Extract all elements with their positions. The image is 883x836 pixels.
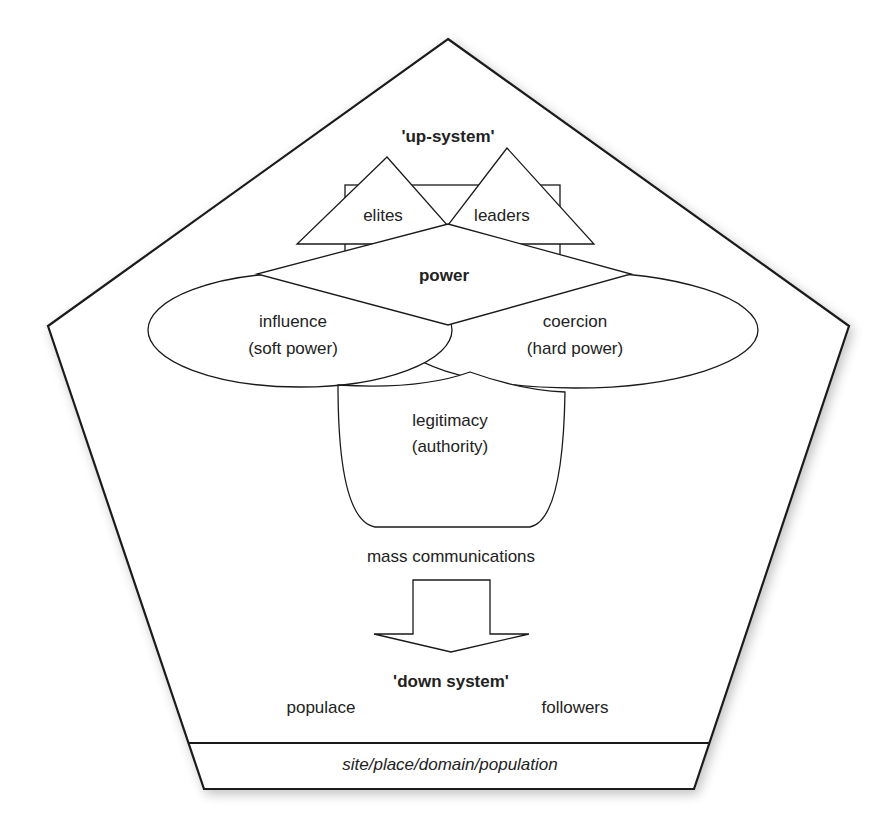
mass-communications-label: mass communications — [367, 547, 535, 566]
base-label: site/place/domain/population — [342, 755, 557, 774]
coercion-label: coercion — [543, 312, 607, 331]
leaders-label: leaders — [474, 206, 530, 225]
followers-label: followers — [541, 698, 608, 717]
up-system-label: 'up-system' — [401, 127, 494, 146]
down-system-label: 'down system' — [393, 672, 509, 691]
soft-power-label: (soft power) — [248, 339, 338, 358]
populace-label: populace — [286, 698, 355, 717]
power-diagram: 'up-system' elites leaders power influen… — [0, 0, 883, 836]
legitimacy-label: legitimacy — [412, 411, 488, 430]
power-label: power — [419, 266, 469, 285]
elites-label: elites — [363, 206, 403, 225]
authority-label: (authority) — [412, 437, 489, 456]
influence-label: influence — [259, 312, 327, 331]
hard-power-label: (hard power) — [527, 339, 623, 358]
